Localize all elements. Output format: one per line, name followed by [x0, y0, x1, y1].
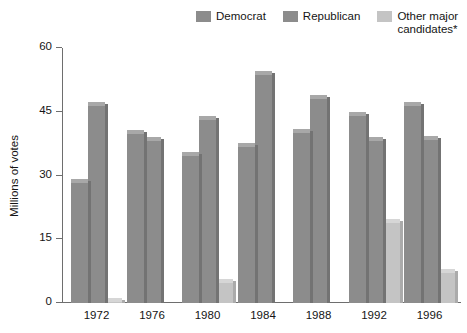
bar-top-highlight: [238, 143, 255, 147]
bar-side-shadow: [327, 97, 330, 303]
x-axis-label-1992: 1992: [344, 309, 404, 321]
bar-side-shadow: [438, 138, 441, 303]
legend-label-other-major-candidates: Other major candidates*: [397, 10, 458, 36]
bar-1992-democrat: [349, 112, 366, 303]
bar-chart: Democrat Republican Other major candidat…: [0, 0, 467, 333]
legend-item-other-major-candidates: Other major candidates*: [377, 10, 458, 36]
bar-side-shadow: [255, 145, 258, 303]
bar-groups: [62, 48, 461, 303]
bar-group-1976: [127, 48, 178, 303]
bar-side-shadow: [383, 139, 386, 303]
bar-group-1992: [349, 48, 400, 303]
legend-swatch-other-major-candidates: [377, 11, 392, 22]
bar-face: [71, 182, 88, 303]
bar-top-highlight: [88, 102, 105, 106]
bar-top-highlight: [199, 116, 216, 120]
bar-face: [182, 155, 199, 303]
bar-top-highlight: [182, 152, 199, 156]
bar-top-highlight: [71, 179, 88, 183]
bar-side-shadow: [105, 104, 108, 303]
legend-item-democrat: Democrat: [196, 10, 266, 23]
y-axis-tick-label-45: 45: [39, 104, 52, 116]
bar-side-shadow: [400, 221, 403, 303]
y-axis-tick-label-30: 30: [39, 168, 52, 180]
bar-1988-democrat: [293, 129, 310, 303]
bar-1984-democrat: [238, 143, 255, 303]
y-axis-tick-label-60: 60: [39, 40, 52, 52]
bar-top-highlight: [404, 102, 421, 106]
x-axis-label-1976: 1976: [122, 309, 182, 321]
bar-1996-democrat: [404, 102, 421, 303]
bar-side-shadow: [216, 118, 219, 303]
bar-top-highlight: [310, 95, 327, 99]
bar-face: [238, 146, 255, 303]
bar-top-highlight: [349, 112, 366, 116]
bar-side-shadow: [455, 271, 458, 303]
bar-group-1972: [71, 48, 122, 303]
bar-group-1980: [182, 48, 233, 303]
bar-face: [293, 132, 310, 303]
legend-label-republican: Republican: [303, 10, 361, 23]
y-axis-tick-label-15: 15: [39, 231, 52, 243]
bar-1980-democrat: [182, 152, 199, 303]
bar-side-shadow: [272, 73, 275, 303]
legend-swatch-republican: [283, 11, 298, 22]
bar-face: [349, 115, 366, 303]
y-axis-tick-label-0: 0: [46, 295, 52, 307]
x-axis-label-1988: 1988: [289, 309, 349, 321]
chart-legend: Democrat Republican Other major candidat…: [196, 10, 458, 36]
legend-item-republican: Republican: [283, 10, 361, 23]
x-axis-label-1980: 1980: [178, 309, 238, 321]
bar-side-shadow: [88, 181, 91, 303]
bar-face: [127, 133, 144, 303]
bar-face: [404, 105, 421, 303]
bar-side-shadow: [366, 114, 369, 303]
y-axis-title-text: Millions of votes: [8, 135, 20, 217]
bar-side-shadow: [161, 139, 164, 303]
bar-group-1988: [293, 48, 344, 303]
bar-top-highlight: [127, 130, 144, 134]
bar-side-shadow: [122, 300, 125, 303]
bar-side-shadow: [421, 104, 424, 303]
x-axis-label-1996: 1996: [400, 309, 460, 321]
legend-label-democrat: Democrat: [216, 10, 266, 23]
bar-top-highlight: [293, 129, 310, 133]
bar-group-1996: [404, 48, 455, 303]
bar-side-shadow: [199, 154, 202, 303]
bar-side-shadow: [233, 281, 236, 303]
bar-group-1984: [238, 48, 289, 303]
legend-swatch-democrat: [196, 11, 211, 22]
bar-1976-democrat: [127, 130, 144, 303]
bar-side-shadow: [144, 132, 147, 303]
x-axis-label-1972: 1972: [67, 309, 127, 321]
bar-side-shadow: [310, 131, 313, 303]
bar-1972-democrat: [71, 179, 88, 303]
plot-area: 015304560: [62, 48, 461, 303]
x-axis-label-1984: 1984: [233, 309, 293, 321]
y-axis-title: Millions of votes: [6, 48, 22, 303]
bar-top-highlight: [255, 71, 272, 75]
